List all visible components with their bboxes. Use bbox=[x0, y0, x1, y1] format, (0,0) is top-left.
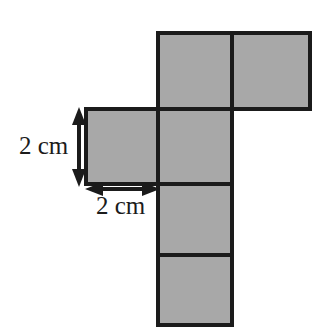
figure-canvas: 2 cm 2 cm bbox=[0, 0, 327, 333]
vertical-dimension-label: 2 cm bbox=[19, 133, 68, 158]
square-lower bbox=[158, 184, 232, 255]
square-top-left bbox=[158, 33, 232, 109]
square-middle-center bbox=[158, 109, 232, 184]
square-top-right bbox=[232, 33, 310, 109]
horizontal-dimension-label: 2 cm bbox=[96, 193, 145, 218]
square-bottom bbox=[158, 255, 232, 325]
net-diagram bbox=[0, 0, 327, 333]
square-middle-left bbox=[86, 109, 158, 184]
